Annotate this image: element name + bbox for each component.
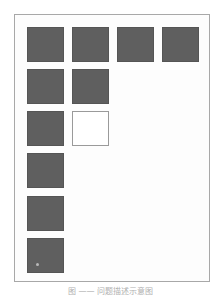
filled-tile <box>72 69 109 104</box>
filled-tile <box>27 27 64 62</box>
filled-tile <box>27 69 64 104</box>
filled-tile <box>117 27 154 62</box>
filled-tile <box>27 238 64 273</box>
filled-tile <box>72 27 109 62</box>
filled-tile <box>27 111 64 146</box>
filled-tile <box>27 196 64 231</box>
filled-tile <box>27 153 64 188</box>
marker-dot-icon <box>36 263 39 266</box>
filled-tile <box>162 27 199 62</box>
empty-tile <box>72 111 109 146</box>
figure-caption: 图 —— 问题描述示意图 <box>0 287 221 296</box>
